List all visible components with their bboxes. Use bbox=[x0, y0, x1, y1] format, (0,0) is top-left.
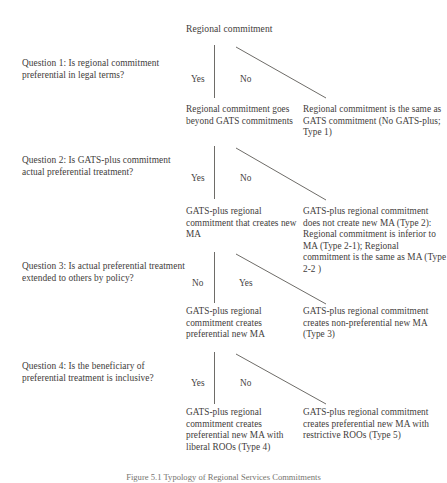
root-node-label: Regional commitment bbox=[186, 23, 386, 35]
level-4-no-label: No bbox=[240, 378, 251, 389]
level-3-vertical-connector bbox=[214, 252, 215, 303]
level-1-outcome-left: Regional commitment goes beyond GATS com… bbox=[186, 104, 304, 127]
level-2-yes-label: Yes bbox=[191, 173, 205, 184]
question-3-text: Question 3: Is actual preferential treat… bbox=[22, 261, 187, 285]
level-4-yes-label: Yes bbox=[191, 378, 205, 389]
level-1-outcome-right: Regional commitment is the same as GATS … bbox=[303, 104, 447, 139]
level-3-outcome-left: GATS-plus regional commitment creates pr… bbox=[186, 306, 304, 341]
level-4-outcome-left: GATS-plus regional commitment creates pr… bbox=[186, 407, 304, 453]
question-1-text: Question 1: Is regional commitment prefe… bbox=[22, 58, 187, 82]
level-2-outcome-left: GATS-plus regional commitment that creat… bbox=[186, 206, 304, 241]
level-3-yes-label: Yes bbox=[239, 278, 253, 289]
level-1-vertical-connector bbox=[214, 45, 215, 98]
level-1-yes-label: Yes bbox=[191, 74, 205, 85]
figure-canvas: Regional commitment Question 1: Is regio… bbox=[0, 0, 447, 483]
level-4-vertical-connector bbox=[214, 352, 215, 404]
question-2-text: Question 2: Is GATS-plus commitment actu… bbox=[22, 155, 187, 179]
figure-caption: Figure 5.1 Typology of Regional Services… bbox=[0, 472, 447, 483]
level-3-no-label: No bbox=[192, 278, 203, 289]
level-3-outcome-right: GATS-plus regional commitment creates no… bbox=[303, 306, 447, 341]
level-2-vertical-connector bbox=[214, 146, 215, 199]
level-4-outcome-right: GATS-plus regional commitment creates pr… bbox=[303, 407, 447, 442]
level-1-diagonal-connector bbox=[236, 45, 328, 100]
level-2-no-label: No bbox=[240, 173, 251, 184]
level-1-no-label: No bbox=[240, 74, 251, 85]
question-4-text: Question 4: Is the beneficiary of prefer… bbox=[22, 361, 187, 385]
